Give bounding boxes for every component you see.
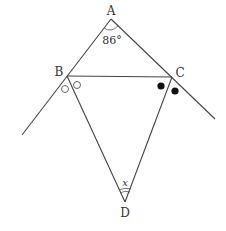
angle-a-value: 86° xyxy=(102,34,122,47)
label-d: D xyxy=(120,206,130,220)
filled-circle-mark xyxy=(171,87,178,94)
line-ac-extended xyxy=(111,19,215,119)
label-c: C xyxy=(175,66,184,80)
segment-bc xyxy=(67,76,172,77)
open-circle-mark xyxy=(62,86,69,93)
angle-d-variable: x xyxy=(122,177,128,188)
line-ab-extended xyxy=(22,19,111,135)
label-a: A xyxy=(106,4,116,18)
angle-a-arc xyxy=(104,26,118,30)
open-circle-mark xyxy=(74,82,81,89)
geometry-diagram: A B C D 86° x xyxy=(0,0,226,231)
segment-cd xyxy=(125,77,172,202)
label-b: B xyxy=(55,65,64,79)
segment-bd xyxy=(67,76,125,202)
filled-circle-mark xyxy=(157,82,164,89)
